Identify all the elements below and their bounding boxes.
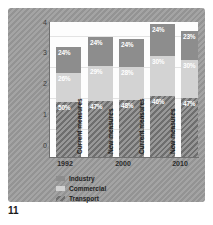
scenario-label-2000-new: New measures [107,108,114,154]
legend-label-commercial: Commercial [69,185,106,192]
scenario-label-2010-new: New measures [169,108,176,154]
segment-label: 26% [58,75,70,82]
segment-industry: 24% [150,24,175,56]
segment-label: 48% [121,102,133,109]
legend-swatch-industry [56,176,65,181]
legend-item-transport[interactable]: Transport [56,194,106,203]
segment-commercial: 30% [181,60,198,98]
legend-swatch-commercial [56,186,65,191]
bar-2010-new-measures[interactable]: 23% 30% 47% [181,31,198,157]
legend-item-commercial[interactable]: Commercial [56,184,106,193]
x-axis-line [49,157,199,158]
legend-label-transport: Transport [69,195,99,202]
x-label-1992: 1992 [45,160,85,168]
plot-area: 24% 26% 50% 24% 29% 47% [50,22,198,157]
x-label-2010: 2010 [160,160,200,168]
gridline-4 [50,36,198,37]
scenario-label-2010-current: Current measures [138,98,145,154]
segment-industry: 23% [181,31,198,60]
segment-label: 24% [152,26,164,33]
segment-label: 28% [121,69,133,76]
segment-label: 24% [58,49,70,56]
segment-commercial: 30% [150,56,175,96]
segment-label: 47% [183,100,195,107]
legend-label-industry: Industry [69,175,95,182]
segment-label: 24% [121,41,133,48]
segment-label: 29% [90,68,102,75]
legend: Industry Commercial Transport [56,174,106,204]
legend-swatch-transport [56,196,65,201]
figure-frame: 4 3 2 1 0 24% 26% 50% [8,8,205,202]
y-tick-4: 4 [33,19,47,26]
segment-commercial: 28% [119,67,144,100]
segment-label: 24% [90,39,102,46]
segment-label: 23% [183,33,195,40]
y-tick-2: 2 [33,80,47,87]
y-tick-3: 3 [33,49,47,56]
segment-industry: 24% [119,39,144,67]
segment-industry: 24% [88,37,113,66]
segment-commercial: 29% [88,66,113,101]
y-tick-1: 1 [33,111,47,118]
segment-label: 46% [152,98,164,105]
y-axis-tick-labels: 4 3 2 1 0 [30,8,47,202]
x-label-2000: 2000 [103,160,143,168]
segment-label: 47% [90,103,102,110]
page-number: 11 [8,205,19,217]
y-tick-0: 0 [33,142,47,149]
scenario-label-2000-current: Current measures [76,98,83,154]
figure-page: 4 3 2 1 0 24% 26% 50% [0,0,213,225]
legend-item-industry[interactable]: Industry [56,174,106,183]
segment-label: 30% [152,58,164,65]
segment-industry: 24% [56,47,81,73]
segment-label: 50% [58,104,70,111]
segment-transport: 47% [181,98,198,157]
segment-label: 30% [183,62,195,69]
